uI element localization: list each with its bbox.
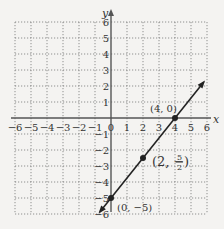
svg-text:5: 5 xyxy=(188,122,194,133)
svg-text:4: 4 xyxy=(103,49,109,60)
svg-text:5: 5 xyxy=(103,33,109,44)
data-line xyxy=(99,80,205,213)
coordinate-plane: −6−5−4−3−2−10123456−6−5−4−3−2−1123456 x … xyxy=(0,0,224,229)
svg-text:−1: −1 xyxy=(94,129,109,140)
point-label-0-neg5: (0, −5) xyxy=(117,202,152,213)
svg-text:−3: −3 xyxy=(94,161,109,172)
svg-text:2: 2 xyxy=(103,81,109,92)
svg-text:3: 3 xyxy=(103,65,109,76)
svg-text:−5: −5 xyxy=(24,122,39,133)
svg-text:−2: −2 xyxy=(72,122,87,133)
point-label-2-neg5half: (2, − 5 2 ) xyxy=(152,153,189,172)
graph-figure: −6−5−4−3−2−10123456−6−5−4−3−2−1123456 x … xyxy=(0,0,224,229)
svg-text:−4: −4 xyxy=(40,122,55,133)
svg-text:): ) xyxy=(184,154,189,169)
svg-text:3: 3 xyxy=(156,122,162,133)
svg-text:6: 6 xyxy=(204,122,210,133)
point-label-4-0: (4, 0) xyxy=(150,103,177,114)
svg-text:4: 4 xyxy=(172,122,178,133)
svg-text:−3: −3 xyxy=(56,122,71,133)
svg-text:−2: −2 xyxy=(94,145,109,156)
svg-text:−6: −6 xyxy=(8,122,23,133)
svg-text:2: 2 xyxy=(140,122,146,133)
svg-text:2: 2 xyxy=(177,163,182,172)
x-axis-label: x xyxy=(213,113,220,126)
svg-text:5: 5 xyxy=(177,153,182,162)
svg-text:1: 1 xyxy=(124,122,130,133)
svg-text:−4: −4 xyxy=(94,177,109,188)
y-axis-label: y xyxy=(101,7,109,20)
svg-text:1: 1 xyxy=(103,97,109,108)
